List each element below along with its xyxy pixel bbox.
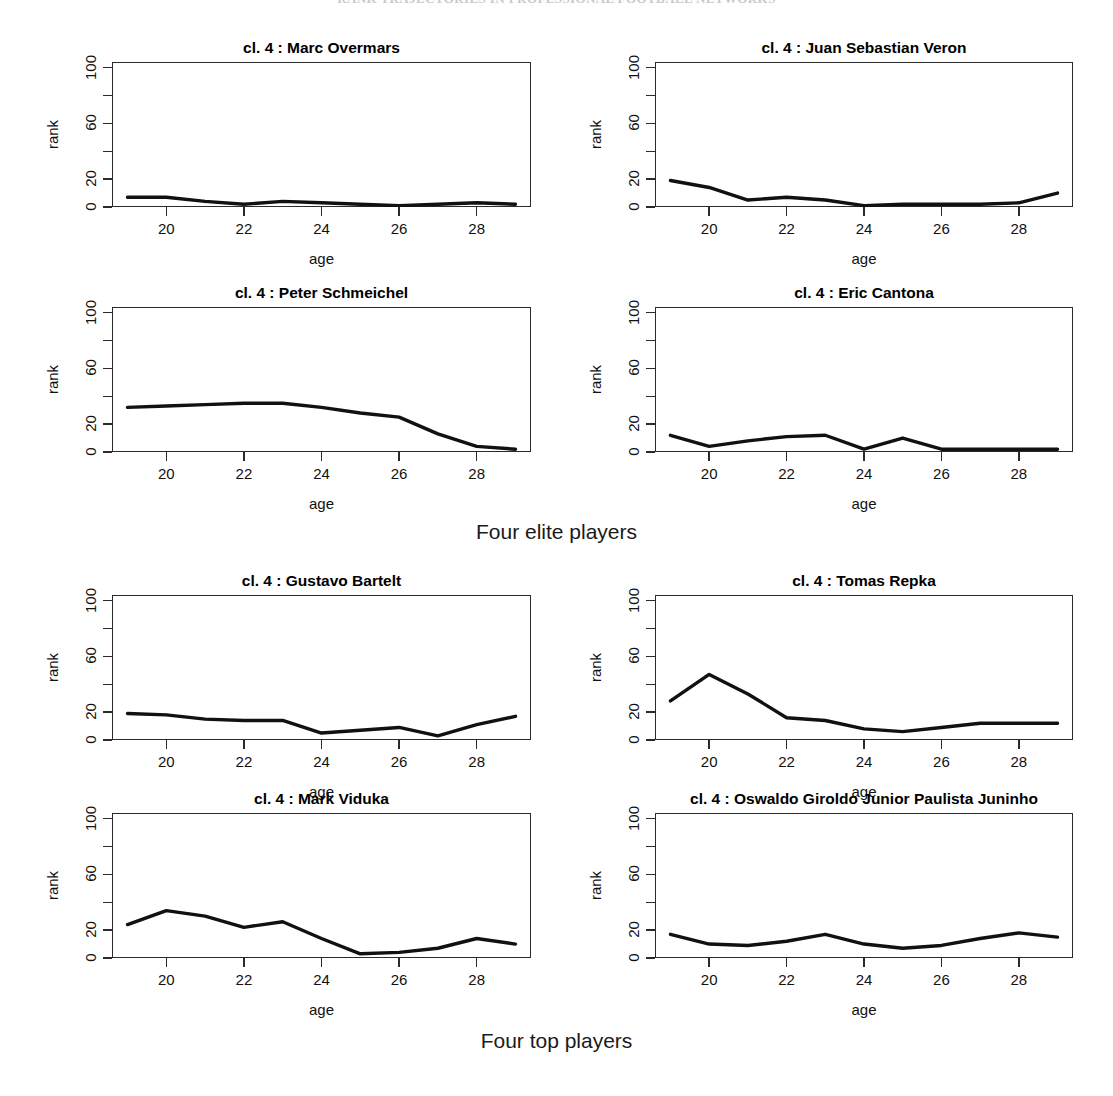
chart-panel: cl. 4 : Oswaldo Giroldo Junior Paulista … — [0, 0, 1113, 1096]
y-axis-tick — [646, 846, 655, 847]
x-axis-tick-label: 24 — [839, 971, 889, 988]
y-axis-tick — [646, 957, 655, 958]
caption-elite-players: Four elite players — [0, 520, 1113, 544]
x-axis-tick — [863, 958, 864, 967]
caption-top-players: Four top players — [0, 1029, 1113, 1053]
x-axis-tick-label: 28 — [994, 971, 1044, 988]
x-axis-tick-label: 26 — [916, 971, 966, 988]
y-axis-tick-label: 20 — [625, 908, 642, 952]
y-axis-tick-label: 60 — [625, 852, 642, 896]
x-axis-tick — [786, 958, 787, 967]
x-axis-tick-label: 20 — [684, 971, 734, 988]
y-axis-label: rank — [587, 855, 604, 915]
x-axis-tick — [941, 958, 942, 967]
y-axis-tick-label: 100 — [625, 796, 642, 840]
small-multiples-figure: cl. 4 : Marc Overmars020601002022242628a… — [0, 0, 1113, 1096]
chart-title: cl. 4 : Oswaldo Giroldo Junior Paulista … — [615, 789, 1113, 809]
y-axis-tick — [646, 902, 655, 903]
y-axis-tick — [646, 874, 655, 875]
x-axis-label: age — [655, 1001, 1073, 1018]
y-axis-tick — [646, 929, 655, 930]
series-line — [655, 813, 1073, 958]
y-axis-tick — [646, 818, 655, 819]
x-axis-tick-label: 22 — [762, 971, 812, 988]
x-axis-tick — [708, 958, 709, 967]
x-axis-tick — [1018, 958, 1019, 967]
